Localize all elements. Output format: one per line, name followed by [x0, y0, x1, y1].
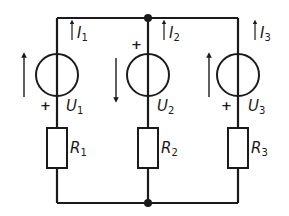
current-label-1: I1 — [77, 24, 88, 43]
top-node — [144, 14, 152, 22]
source-label-1: U1 — [66, 97, 83, 116]
resistor-3 — [228, 128, 248, 168]
current-label-2: I2 — [169, 24, 180, 43]
circuit-diagram: I1 I2 I3 + + + U1 U2 U3 R1 R2 R3 — [0, 0, 289, 216]
resistor-label-3: R3 — [251, 139, 268, 158]
resistor-label-1: R1 — [70, 139, 87, 158]
current-arrows — [72, 22, 255, 40]
plus-sign-1: + — [40, 98, 51, 113]
resistor-label-2: R2 — [161, 139, 178, 158]
resistor-1 — [47, 128, 67, 168]
bottom-node — [144, 199, 152, 207]
plus-sign-2: + — [131, 37, 142, 52]
plus-sign-3: + — [221, 98, 232, 113]
source-label-2: U2 — [157, 97, 174, 116]
resistor-2 — [138, 128, 158, 168]
wires — [57, 18, 238, 203]
source-label-3: U3 — [248, 97, 265, 116]
current-label-3: I3 — [260, 24, 271, 43]
voltage-arrows — [24, 55, 209, 100]
